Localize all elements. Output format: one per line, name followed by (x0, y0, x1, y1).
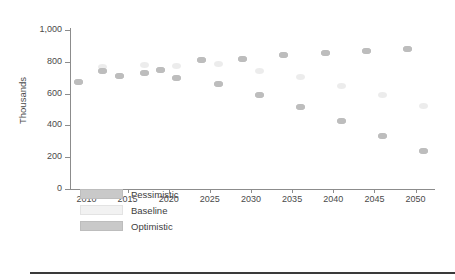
data-point-baseline (172, 63, 181, 69)
y-tick-label: 0 (22, 184, 62, 193)
data-point-optimistic (337, 118, 346, 124)
y-tick-mark (65, 189, 70, 190)
y-tick-label: 800 (22, 57, 62, 66)
scatter-chart: Thousands 02004006008001,000 20102015202… (0, 0, 455, 280)
data-point-baseline (296, 74, 305, 80)
data-point-optimistic (238, 56, 247, 62)
data-point-optimistic (378, 133, 387, 139)
data-point-optimistic (362, 48, 371, 54)
data-point-baseline (140, 62, 149, 68)
x-tick-label: 2030 (231, 194, 271, 204)
y-tick-mark (65, 30, 70, 31)
x-tick-mark (292, 189, 293, 193)
data-point-optimistic (403, 46, 412, 52)
legend-swatch-icon (80, 189, 123, 199)
legend-swatch-icon (80, 205, 123, 215)
data-point-optimistic (279, 52, 288, 58)
legend-label: Baseline (131, 205, 167, 216)
legend-label: Pessimistic (131, 189, 179, 200)
y-tick-mark (65, 157, 70, 158)
data-point-optimistic (419, 148, 428, 154)
y-tick-label: 200 (22, 152, 62, 161)
data-point-baseline (214, 61, 223, 67)
y-tick-mark (65, 94, 70, 95)
x-tick-label: 2050 (396, 194, 436, 204)
x-tick-mark (251, 189, 252, 193)
plot-area: Thousands 02004006008001,000 20102015202… (0, 0, 455, 280)
data-point-optimistic (74, 79, 83, 85)
legend-item: Pessimistic (80, 186, 179, 202)
data-point-optimistic (214, 81, 223, 87)
y-tick-label: 1,000 (22, 25, 62, 34)
data-point-baseline (255, 68, 264, 74)
legend-swatch-icon (80, 221, 123, 231)
data-point-optimistic (296, 104, 305, 110)
x-tick-label: 2035 (272, 194, 312, 204)
data-point-optimistic (115, 73, 124, 79)
legend-item: Baseline (80, 202, 179, 218)
data-point-baseline (419, 103, 428, 109)
x-tick-label: 2025 (190, 194, 230, 204)
data-point-optimistic (255, 92, 264, 98)
y-tick-label: 600 (22, 89, 62, 98)
x-tick-mark (416, 189, 417, 193)
data-point-optimistic (156, 67, 165, 73)
data-point-optimistic (172, 75, 181, 81)
y-tick-mark (65, 125, 70, 126)
x-tick-mark (333, 189, 334, 193)
data-point-optimistic (321, 50, 330, 56)
data-point-optimistic (98, 68, 107, 74)
data-point-baseline (337, 83, 346, 89)
y-tick-mark (65, 62, 70, 63)
x-tick-mark (374, 189, 375, 193)
y-tick-label: 400 (22, 120, 62, 129)
data-point-optimistic (140, 70, 149, 76)
chart-legend: PessimisticBaselineOptimistic (80, 186, 179, 234)
x-tick-label: 2040 (313, 194, 353, 204)
y-axis-line (70, 28, 71, 190)
legend-item: Optimistic (80, 218, 179, 234)
footer-divider (30, 272, 455, 274)
x-tick-mark (210, 189, 211, 193)
legend-label: Optimistic (131, 221, 173, 232)
x-tick-label: 2045 (354, 194, 394, 204)
data-point-baseline (378, 92, 387, 98)
data-point-optimistic (197, 57, 206, 63)
